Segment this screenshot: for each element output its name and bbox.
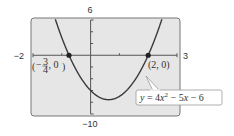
xmax-label: 3 xyxy=(183,51,188,61)
x-intercept-point-right xyxy=(146,53,151,58)
x-intercept-point-left xyxy=(66,53,71,58)
ymax-label: 6 xyxy=(87,5,92,15)
fraction-denominator: 4 xyxy=(43,64,48,75)
point-label-right: (2, 0) xyxy=(148,59,170,71)
minus-sign: − xyxy=(36,59,42,70)
equation-label: y = 4x2 − 5x − 6 xyxy=(139,91,204,103)
ymin-label: −10 xyxy=(82,119,97,129)
paren-close: ) xyxy=(62,61,65,73)
label-tail: , 0 xyxy=(49,59,59,70)
xmin-label: −2 xyxy=(14,51,24,61)
parabola-chart: 6 −10 −2 3 ( − 3 4 , 0 ) (2, 0) y = 4x2 … xyxy=(0,0,234,136)
